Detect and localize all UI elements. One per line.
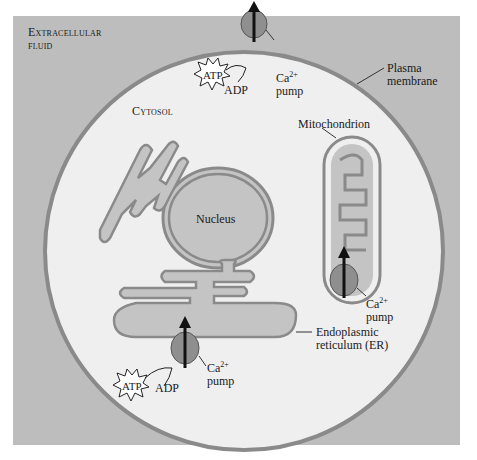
charge: 2+ [289,70,298,79]
ion: Ca [207,361,220,375]
charge: 2+ [220,360,229,369]
adp-label-top: ADP [224,84,248,97]
adp-label-er: ADP [155,382,179,395]
er-label: Endoplasmic reticulum (ER) [316,326,388,352]
mitochondrion-label: Mitochondrion [298,118,370,131]
er-line1: Endoplasmic [316,325,379,339]
charge: 2+ [379,296,388,305]
plasma-membrane-line1: Plasma [387,61,422,75]
ion: Ca [276,71,289,85]
plasma-membrane-label: Plasma membrane [387,62,438,88]
ca-pump-label-mito: Ca2+ pump [366,298,393,324]
atp-label-er: ATP [122,380,142,393]
pump-plasma-membrane [241,1,267,42]
plasma-membrane-leader [357,68,384,84]
ion: Ca [366,297,379,311]
er-line2: reticulum (ER) [316,338,388,352]
ca-pump-label-er: Ca2+ pump [207,362,234,388]
pump-word: pump [207,374,234,388]
extracellular-line2: fluid [28,38,53,52]
pump-word: pump [366,310,393,324]
atp-label-top: ATP [203,69,223,82]
pump-word: pump [276,84,303,98]
ca-pump-label-top: Ca2+ pump [276,72,303,98]
extracellular-label: Extracellular fluid [28,26,101,52]
pump-top-leader [266,30,274,40]
nucleus-label: Nucleus [196,213,235,226]
cytosol-label: Cytosol [132,105,173,118]
extracellular-line1: Extracellular [28,25,101,39]
plasma-membrane-line2: membrane [387,74,438,88]
